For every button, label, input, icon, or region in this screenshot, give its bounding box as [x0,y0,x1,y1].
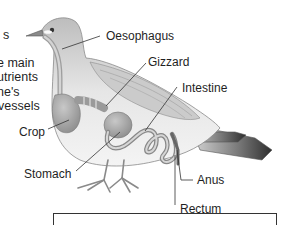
label-stomach: Stomach [24,168,71,181]
bottom-bracket-rule [53,213,277,225]
label-anus: Anus [197,174,224,187]
label-intestine: Intestine [182,82,227,95]
side-text-line-1: s [3,28,9,43]
label-crop: Crop [19,126,45,139]
side-text-line-5: vessels [0,99,40,114]
beak [26,30,43,36]
bird-digestive-diagram: s e main utrients ne's vessels Oesophagu… [0,0,284,225]
side-text-line-2: e main [0,56,35,71]
label-gizzard: Gizzard [148,56,189,69]
label-oesophagus: Oesophagus [106,30,174,43]
side-text-line-3: utrients [0,70,38,85]
side-text-line-4: ne's [0,85,20,100]
